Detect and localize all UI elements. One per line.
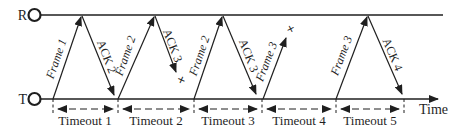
frame-1-label: Frame 1 bbox=[43, 37, 70, 81]
receiver-label: R bbox=[18, 8, 28, 23]
timeout-4-label: Timeout 4 bbox=[272, 113, 326, 128]
arrow-labels: Frame 1 ACK 2 Frame 2 ACK 3 Frame 2 ACK … bbox=[43, 27, 406, 84]
time-axis-label: Time bbox=[419, 102, 448, 117]
timeout-labels: Timeout 1 Timeout 2 Timeout 3 Timeout 4 … bbox=[58, 113, 396, 128]
transmitter-node-icon bbox=[29, 93, 41, 105]
ack-3-lost-label: ACK 3 bbox=[160, 27, 185, 64]
receiver-timeline: R bbox=[18, 8, 443, 23]
timeout-1-label: Timeout 1 bbox=[58, 113, 111, 128]
frame-3-lost-x-icon: × bbox=[282, 23, 299, 35]
timeout-3-label: Timeout 3 bbox=[201, 113, 254, 128]
ack-4-label: ACK 4 bbox=[380, 36, 406, 73]
frame-2-label: Frame 2 bbox=[112, 34, 139, 78]
transmitter-label: T bbox=[18, 92, 27, 107]
diagram-svg: R T Time × × Frame 1 ACK 2 Frame 2 ACK 3… bbox=[0, 0, 465, 131]
timeout-5-label: Timeout 5 bbox=[343, 113, 396, 128]
ack-3-lost-x-icon: × bbox=[173, 74, 190, 86]
receiver-node-icon bbox=[29, 9, 41, 21]
timeout-ticks bbox=[53, 99, 404, 114]
timeout-2-label: Timeout 2 bbox=[129, 113, 182, 128]
frame-3-retransmit-label: Frame 3 bbox=[327, 34, 355, 78]
arq-timing-diagram: R T Time × × Frame 1 ACK 2 Frame 2 ACK 3… bbox=[0, 0, 465, 131]
